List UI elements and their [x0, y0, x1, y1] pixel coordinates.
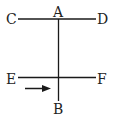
right-arrow-icon — [25, 85, 51, 92]
diagram: A C D E F B — [0, 0, 116, 121]
label-b: B — [53, 101, 63, 117]
label-a: A — [52, 4, 64, 20]
label-f: F — [97, 71, 107, 87]
label-d: D — [97, 11, 108, 27]
label-c: C — [6, 11, 17, 27]
label-e: E — [6, 71, 16, 87]
